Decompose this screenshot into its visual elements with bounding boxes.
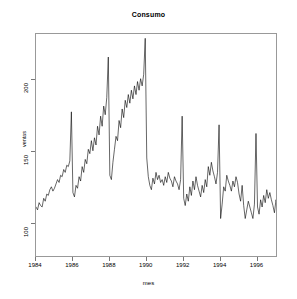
- x-tick-label: 1984: [23, 262, 47, 268]
- chart-page: Consumo ventas 100150200 198419861988199…: [0, 0, 297, 299]
- x-tick-mark: [146, 257, 147, 261]
- x-tick-label: 1996: [245, 262, 269, 268]
- x-tick-mark: [257, 257, 258, 261]
- x-tick-mark: [183, 257, 184, 261]
- x-tick-label: 1988: [97, 262, 121, 268]
- x-tick-label: 1994: [208, 262, 232, 268]
- x-tick-label: 1992: [171, 262, 195, 268]
- x-axis-label: mes: [0, 280, 297, 286]
- x-tick-label: 1990: [134, 262, 158, 268]
- series-line-ventas: [36, 34, 276, 256]
- x-tick-label: 1986: [60, 262, 84, 268]
- x-tick-mark: [220, 257, 221, 261]
- x-tick-mark: [109, 257, 110, 261]
- x-tick-mark: [35, 257, 36, 261]
- x-tick-mark: [72, 257, 73, 261]
- plot-area: [35, 33, 277, 257]
